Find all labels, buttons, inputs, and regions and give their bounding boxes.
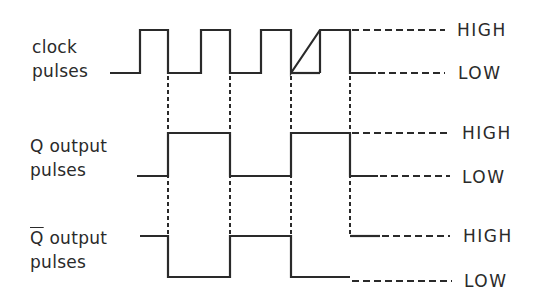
q-symbol: Q xyxy=(30,136,44,156)
edge-alignment-lines xyxy=(168,76,350,236)
q-bar-symbol: Q xyxy=(30,228,44,248)
q-high-label: HIGH xyxy=(462,123,512,143)
clock-high-label: HIGH xyxy=(457,20,507,40)
qbar-waveform xyxy=(140,236,350,277)
q-low-label: LOW xyxy=(462,167,506,187)
qbar-output-label: Q output pulses xyxy=(30,227,107,273)
clock-waveform xyxy=(110,30,376,73)
q-output-label: Q output pulses xyxy=(30,135,107,181)
qbar-low-label: LOW xyxy=(464,271,508,291)
clock-label: clock pulses xyxy=(32,36,88,82)
q-waveform xyxy=(137,133,378,176)
level-guide-lines xyxy=(352,30,452,281)
qbar-high-label: HIGH xyxy=(463,226,513,246)
clock-low-label: LOW xyxy=(458,63,502,83)
